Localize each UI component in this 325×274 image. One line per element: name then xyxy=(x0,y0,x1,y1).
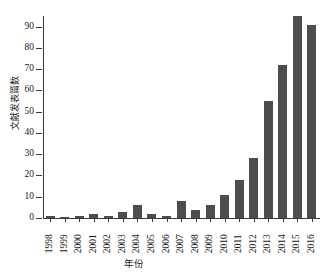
bar xyxy=(147,214,156,218)
bar xyxy=(60,217,69,218)
y-axis-tick-label: 70 xyxy=(25,64,35,74)
x-axis-tick-mark xyxy=(50,219,51,222)
bar xyxy=(46,216,55,218)
x-axis-tick: 2001 xyxy=(87,219,102,265)
bar xyxy=(293,16,302,218)
x-axis-tick-label: 2002 xyxy=(104,234,114,253)
x-axis-tick: 2007 xyxy=(174,219,189,265)
bar xyxy=(191,210,200,219)
x-axis-tick: 2009 xyxy=(203,219,218,265)
x-axis-tick-mark xyxy=(94,219,95,222)
y-axis-tick-label: 60 xyxy=(25,86,35,96)
x-axis-tick-label: 2001 xyxy=(89,234,99,253)
bar xyxy=(75,216,84,218)
bar-slot xyxy=(130,16,145,218)
bar-slot xyxy=(159,16,174,218)
x-axis-tick-label: 2003 xyxy=(118,234,128,253)
x-axis-tick-label: 2016 xyxy=(307,234,317,253)
x-axis-tick-mark xyxy=(312,219,313,222)
x-axis-tick-mark xyxy=(196,219,197,222)
bar xyxy=(264,101,273,218)
y-axis-tick-mark xyxy=(36,218,42,219)
x-axis-tick-mark xyxy=(297,219,298,222)
bar-slot xyxy=(217,16,232,218)
x-axis-tick: 2013 xyxy=(261,219,276,265)
x-axis-tick-label: 2013 xyxy=(263,234,273,253)
y-axis-tick-mark xyxy=(36,133,42,134)
bar-slot xyxy=(58,16,73,218)
x-axis-tick-mark xyxy=(181,219,182,222)
publication-count-bar-chart: 文献发表篇数 0102030405060708090 1998199920002… xyxy=(0,0,325,274)
bar-slot xyxy=(72,16,87,218)
bar-slot xyxy=(145,16,160,218)
y-axis-tick-label: 40 xyxy=(25,128,35,138)
x-axis-title: 年份 xyxy=(124,256,144,270)
y-axis-tick-mark xyxy=(36,90,42,91)
y-axis-tick-mark xyxy=(36,197,42,198)
x-axis-tick: 2000 xyxy=(72,219,87,265)
bar xyxy=(89,214,98,218)
x-axis-tick-mark xyxy=(210,219,211,222)
x-axis-tick-label: 2014 xyxy=(278,234,288,253)
bar xyxy=(235,180,244,218)
x-axis-tick: 1998 xyxy=(43,219,58,265)
x-axis-tick-mark xyxy=(225,219,226,222)
bar xyxy=(118,212,127,218)
bar xyxy=(220,195,229,218)
x-axis-tick-label: 2004 xyxy=(133,234,143,253)
x-axis-tick: 2014 xyxy=(276,219,291,265)
x-axis-tick-labels: 1998199920002001200220032004200520062007… xyxy=(43,219,319,265)
x-axis-tick: 2002 xyxy=(101,219,116,265)
bar xyxy=(307,25,316,218)
y-axis-tick-mark xyxy=(36,112,42,113)
y-axis-tick-mark xyxy=(36,69,42,70)
bar xyxy=(162,216,171,218)
x-axis-tick: 2016 xyxy=(305,219,320,265)
bar xyxy=(278,65,287,218)
bar-slot xyxy=(174,16,189,218)
x-axis-tick: 2011 xyxy=(232,219,247,265)
bar-slot xyxy=(203,16,218,218)
x-axis-tick-label: 2007 xyxy=(176,234,186,253)
x-axis-tick-mark xyxy=(79,219,80,222)
bar-slot xyxy=(232,16,247,218)
x-axis-tick: 2005 xyxy=(145,219,160,265)
x-axis-tick: 2006 xyxy=(159,219,174,265)
y-axis-tick-label: 50 xyxy=(25,107,35,117)
x-axis-tick: 2008 xyxy=(188,219,203,265)
x-axis-tick-label: 2012 xyxy=(249,234,259,253)
bar-slot xyxy=(101,16,116,218)
bar-slot xyxy=(305,16,320,218)
bar-slot xyxy=(116,16,131,218)
y-axis-tick-label: 90 xyxy=(25,22,35,32)
bar-slot xyxy=(290,16,305,218)
y-axis-tick-mark xyxy=(36,27,42,28)
x-axis-tick-label: 2015 xyxy=(293,234,303,253)
y-axis-tick-label: 0 xyxy=(29,213,34,223)
x-axis-tick: 2012 xyxy=(246,219,261,265)
y-axis-title: 文献发表篇数 xyxy=(8,63,21,143)
bar xyxy=(133,205,142,218)
x-axis-tick: 2015 xyxy=(290,219,305,265)
x-axis-tick-label: 2006 xyxy=(162,234,172,253)
x-axis-tick-label: 2009 xyxy=(205,234,215,253)
x-axis-tick-mark xyxy=(108,219,109,222)
x-axis-tick-mark xyxy=(239,219,240,222)
bar-slot xyxy=(188,16,203,218)
x-axis-tick-label: 2000 xyxy=(75,234,85,253)
bar xyxy=(177,201,186,218)
plot-area: 0102030405060708090 xyxy=(43,16,319,218)
x-axis-tick-mark xyxy=(167,219,168,222)
x-axis-tick-label: 2008 xyxy=(191,234,201,253)
x-axis-tick: 1999 xyxy=(58,219,73,265)
x-axis-tick-label: 2010 xyxy=(220,234,230,253)
x-axis-tick-mark xyxy=(268,219,269,222)
bar-series xyxy=(43,16,319,218)
y-axis-tick-label: 20 xyxy=(25,171,35,181)
x-axis-tick-mark xyxy=(137,219,138,222)
bar-slot xyxy=(246,16,261,218)
x-axis-tick-mark xyxy=(65,219,66,222)
bar-slot xyxy=(43,16,58,218)
x-axis-tick-mark xyxy=(152,219,153,222)
y-axis-tick-mark xyxy=(36,48,42,49)
